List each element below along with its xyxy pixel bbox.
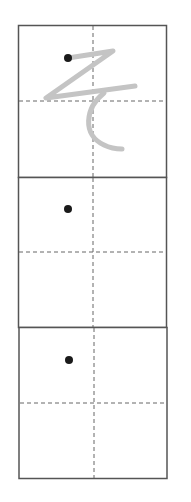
start-dot: [64, 54, 72, 62]
practice-cell-3: [19, 328, 167, 479]
start-dot: [65, 356, 73, 364]
practice-cell-1: [19, 26, 167, 178]
practice-worksheet: [0, 0, 191, 502]
start-dot: [64, 205, 72, 213]
practice-cell-2: [19, 178, 167, 328]
